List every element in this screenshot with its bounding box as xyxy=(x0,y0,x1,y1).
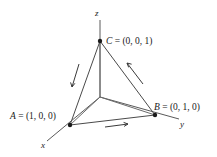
figure-canvas: x y z A = (1, 0, 0) B = (0, 1, 0) C = (0… xyxy=(0,0,217,157)
direction-arrow-a-to-b xyxy=(105,122,128,127)
coordinate-triangle-figure: x y z A = (1, 0, 0) B = (0, 1, 0) C = (0… xyxy=(0,0,217,157)
point-label-b-coords: (0, 1, 0) xyxy=(170,102,200,113)
direction-arrow-c-to-a xyxy=(71,64,79,87)
edge-a-to-b xyxy=(70,115,155,125)
vertex-dot-a xyxy=(68,123,72,127)
edge-b-to-c xyxy=(100,41,155,115)
spoke-origin-to-b xyxy=(100,97,155,115)
point-labels-group: A = (1, 0, 0) B = (0, 1, 0) C = (0, 0, 1… xyxy=(9,36,200,122)
arrow-shaft xyxy=(72,64,79,87)
vertex-dot-c xyxy=(98,39,102,43)
point-label-c-equals: = xyxy=(112,36,122,46)
point-label-b: B = (0, 1, 0) xyxy=(154,102,200,113)
x-axis-label: x xyxy=(40,140,45,150)
point-label-c: C = (0, 0, 1) xyxy=(106,36,153,47)
point-label-c-coords: (0, 0, 1) xyxy=(122,36,152,47)
point-label-a-equals: = xyxy=(16,111,26,121)
z-axis-label: z xyxy=(94,8,99,18)
point-label-b-equals: = xyxy=(160,102,170,112)
point-label-a: A = (1, 0, 0) xyxy=(9,111,56,122)
y-axis-label: y xyxy=(179,119,184,129)
point-label-a-coords: (1, 0, 0) xyxy=(26,111,56,122)
vertex-dot-b xyxy=(153,113,157,117)
